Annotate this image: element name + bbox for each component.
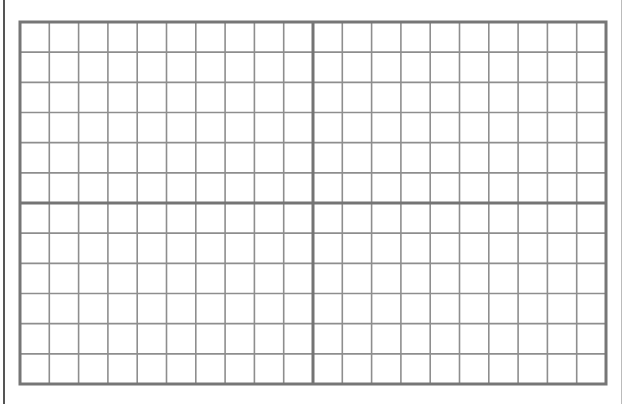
graph-paper-page (0, 0, 624, 404)
grid (0, 0, 624, 404)
